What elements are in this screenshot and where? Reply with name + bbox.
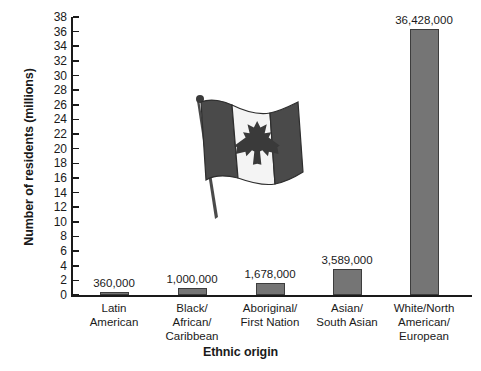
y-axis-tick-label: 24: [43, 113, 67, 125]
y-axis-tick-label: 36: [43, 26, 67, 38]
y-axis-tick: [73, 45, 79, 47]
y-axis-tick: [73, 133, 79, 135]
category-label-line: Caribbean: [144, 329, 240, 343]
y-axis-tick-label: 12: [43, 201, 67, 213]
bar-value-label: 3,589,000: [297, 254, 397, 266]
canadian-flag-icon: [176, 88, 310, 222]
y-axis-tick-label: 18: [43, 157, 67, 169]
y-axis-tick: [73, 265, 79, 267]
y-axis-tick-label: 38: [43, 11, 67, 23]
y-axis-tick-label: 10: [43, 216, 67, 228]
y-axis-tick: [73, 250, 79, 252]
y-axis-tick-label: 34: [43, 40, 67, 52]
y-axis-tick-label: 26: [43, 99, 67, 111]
y-axis-tick: [73, 221, 79, 223]
y-axis-tick-label: 20: [43, 143, 67, 155]
y-axis-tick: [73, 148, 79, 150]
bar: [178, 288, 207, 295]
y-axis-title: Number of residents (millions): [22, 32, 36, 282]
y-axis-tick: [73, 60, 79, 62]
category-label-line: White/North: [376, 301, 472, 315]
bar-chart: Number of residents (millions) 383634323…: [0, 0, 481, 371]
y-axis-tick: [73, 104, 79, 106]
y-axis-tick: [73, 31, 79, 33]
bar-value-label: 36,428,000: [374, 14, 474, 26]
y-axis-tick: [73, 192, 79, 194]
bar: [410, 29, 439, 295]
y-axis-tick-label: 6: [43, 245, 67, 257]
y-axis-tick: [73, 206, 79, 208]
x-axis-line: [71, 295, 472, 297]
y-axis-tick-label: 22: [43, 128, 67, 140]
y-axis-tick-label: 32: [43, 55, 67, 67]
y-axis-tick: [73, 119, 79, 121]
y-axis-tick-label: 16: [43, 172, 67, 184]
y-axis-line: [71, 17, 73, 297]
category-label-line: European: [376, 329, 472, 343]
category-label-line: American/: [376, 315, 472, 329]
y-axis-tick-label: 0: [43, 289, 67, 301]
y-axis-tick: [73, 89, 79, 91]
y-axis-tick: [73, 75, 79, 77]
x-axis-category-label: White/NorthAmerican/European: [376, 301, 472, 343]
bar-value-label: 1,678,000: [220, 268, 320, 280]
bar: [100, 292, 129, 295]
y-axis-tick: [73, 16, 79, 18]
y-axis-tick-label: 4: [43, 260, 67, 272]
y-axis-tick-label: 14: [43, 187, 67, 199]
y-axis-tick-label: 30: [43, 70, 67, 82]
y-axis-tick: [73, 177, 79, 179]
bar: [256, 283, 285, 295]
y-axis-tick-label: 8: [43, 230, 67, 242]
x-axis-title: Ethnic origin: [0, 345, 481, 359]
y-axis-tick: [73, 163, 79, 165]
canadian-flag-illustration: [176, 88, 310, 222]
y-axis-tick: [73, 294, 79, 296]
y-axis-tick: [73, 236, 79, 238]
bar: [333, 269, 362, 295]
y-axis-tick-label: 28: [43, 84, 67, 96]
